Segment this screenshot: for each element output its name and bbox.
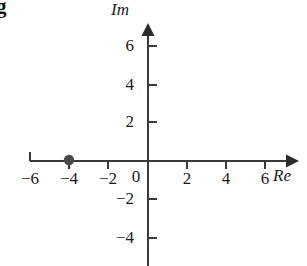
y-axis-arrowhead — [142, 23, 155, 36]
argand-diagram-plot — [0, 0, 307, 266]
im-axis-label: Im — [111, 0, 129, 20]
y-axis-group — [142, 23, 155, 266]
y-tick-label-plus6: 6 — [106, 36, 134, 56]
re-axis-label: Re — [273, 166, 291, 186]
complex-plane-figure: g Im Re −6 −4 −2 0 2 — [0, 0, 307, 266]
x-tick-label-minus6: −6 — [21, 169, 39, 189]
y-axis-ticks — [148, 46, 157, 238]
data-point-marker[interactable] — [64, 155, 74, 165]
x-tick-label-minus2: −2 — [99, 169, 117, 189]
x-tick-label-plus6: 6 — [261, 169, 270, 189]
x-tick-label-plus2: 2 — [183, 169, 192, 189]
x-tick-label-minus4: −4 — [60, 169, 78, 189]
y-tick-label-plus4: 4 — [106, 75, 134, 95]
y-tick-label-minus2: −2 — [100, 189, 134, 209]
x-tick-label-origin: 0 — [132, 167, 141, 187]
y-tick-label-minus4: −4 — [100, 228, 134, 248]
x-tick-label-plus4: 4 — [222, 169, 231, 189]
y-tick-label-plus2: 2 — [106, 112, 134, 132]
